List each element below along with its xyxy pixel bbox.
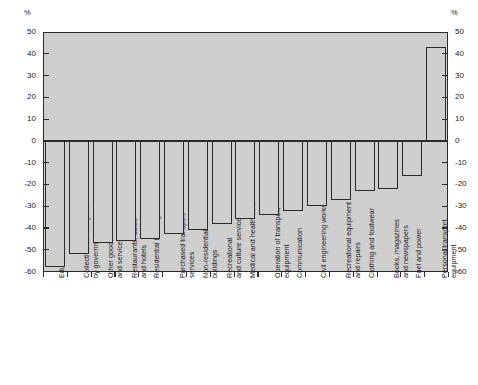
y-tick-label-right-5: 0 xyxy=(455,136,478,145)
y-tick-mark-left-8 xyxy=(43,206,49,207)
bar xyxy=(93,141,113,243)
y-tick-mark-right-1 xyxy=(442,53,448,54)
x-tick-mark xyxy=(67,272,68,277)
bar xyxy=(164,141,184,235)
y-tick-label-right-8: -30 xyxy=(455,201,478,210)
zero-baseline xyxy=(43,140,448,142)
y-tick-mark-right-9 xyxy=(442,227,448,228)
y-tick-label-right-0: 50 xyxy=(455,27,478,36)
bar xyxy=(426,47,446,141)
y-axis-unit-left: % xyxy=(24,8,31,17)
x-category-label: Recreational and culture services xyxy=(226,214,243,278)
y-tick-label-right-11: -60 xyxy=(455,267,478,276)
y-tick-label-right-3: 20 xyxy=(455,92,478,101)
x-category-label: Clothing and footwear xyxy=(368,208,377,278)
y-tick-label-right-9: -40 xyxy=(455,223,478,232)
bar xyxy=(140,141,160,239)
y-tick-mark-left-3 xyxy=(43,97,49,98)
y-tick-label-right-7: -20 xyxy=(455,179,478,188)
y-tick-label-right-6: -10 xyxy=(455,158,478,167)
x-category-label: Recreational equipment and repairs xyxy=(345,202,362,278)
bar xyxy=(188,141,208,230)
y-tick-label-left-3: 20 xyxy=(10,92,36,101)
y-tick-label-right-1: 40 xyxy=(455,49,478,58)
y-tick-mark-right-8 xyxy=(442,206,448,207)
bar xyxy=(116,141,136,241)
bar xyxy=(307,141,327,206)
bar xyxy=(378,141,398,189)
bar-chart: % % 50403020100-10-20-30-40-50-60 504030… xyxy=(0,0,478,385)
x-tick-mark xyxy=(305,272,306,277)
y-tick-label-left-4: 10 xyxy=(10,114,36,123)
y-tick-label-right-10: -50 xyxy=(455,245,478,254)
y-tick-label-left-6: -10 xyxy=(10,158,36,167)
y-tick-mark-left-1 xyxy=(43,53,49,54)
y-tick-label-left-0: 50 xyxy=(10,27,36,36)
y-tick-mark-right-3 xyxy=(442,97,448,98)
y-tick-label-left-1: 40 xyxy=(10,49,36,58)
y-tick-mark-right-6 xyxy=(442,162,448,163)
y-tick-label-left-7: -20 xyxy=(10,179,36,188)
x-category-label: Civil engineering works xyxy=(320,204,329,278)
bar xyxy=(402,141,422,176)
x-tick-mark xyxy=(424,272,425,277)
y-tick-label-right-4: 10 xyxy=(455,114,478,123)
bar xyxy=(69,141,89,254)
y-axis-unit-right: % xyxy=(451,8,458,17)
y-tick-mark-left-2 xyxy=(43,75,49,76)
x-category-label: Communication xyxy=(296,228,305,278)
y-tick-label-left-8: -30 xyxy=(10,201,36,210)
bar xyxy=(235,141,255,219)
y-tick-label-left-2: 30 xyxy=(10,71,36,80)
y-tick-mark-left-6 xyxy=(43,162,49,163)
y-tick-mark-left-7 xyxy=(43,184,49,185)
y-tick-mark-left-10 xyxy=(43,249,49,250)
plot-bottom-border xyxy=(43,271,448,272)
y-tick-mark-left-9 xyxy=(43,227,49,228)
y-tick-label-left-10: -50 xyxy=(10,245,36,254)
y-tick-label-left-9: -40 xyxy=(10,223,36,232)
bar xyxy=(355,141,375,191)
y-tick-mark-left-4 xyxy=(43,119,49,120)
bar xyxy=(331,141,351,200)
y-tick-mark-right-7 xyxy=(442,184,448,185)
y-tick-label-left-11: -60 xyxy=(10,267,36,276)
x-tick-mark xyxy=(377,272,378,277)
x-tick-mark xyxy=(43,272,44,277)
x-category-label: Books, magazines and newspapers xyxy=(393,219,410,278)
x-tick-mark xyxy=(162,272,163,277)
y-tick-mark-right-2 xyxy=(442,75,448,76)
bar xyxy=(283,141,303,211)
bar xyxy=(212,141,232,224)
y-tick-label-left-5: 0 xyxy=(10,136,36,145)
y-tick-mark-right-10 xyxy=(442,249,448,250)
y-tick-label-right-2: 30 xyxy=(455,71,478,80)
x-tick-mark xyxy=(329,272,330,277)
plot-top-border xyxy=(43,32,448,33)
x-category-label: Non-residential buildings xyxy=(202,230,219,278)
x-category-label: Fuel and power xyxy=(415,228,424,278)
x-category-label: Other goods and services xyxy=(107,238,124,278)
x-category-label: Operation of transport equipment xyxy=(274,208,291,278)
y-tick-mark-right-4 xyxy=(442,119,448,120)
bar xyxy=(259,141,279,215)
bar xyxy=(45,141,65,267)
